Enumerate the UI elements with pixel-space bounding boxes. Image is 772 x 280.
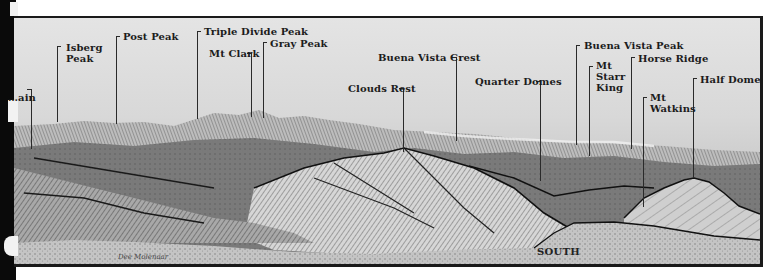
leader-gray-peak bbox=[263, 42, 264, 118]
tick bbox=[116, 36, 120, 37]
tick bbox=[27, 89, 31, 90]
label-mt-starr-king: Mt Starr King bbox=[596, 60, 625, 93]
leader-mt-clark bbox=[251, 53, 252, 117]
tick bbox=[693, 78, 697, 79]
leader-buena-vista-peak bbox=[576, 45, 577, 145]
label-buena-vista-crest: Buena Vista Crest bbox=[378, 52, 480, 63]
ragged-edge bbox=[4, 236, 18, 256]
artist-signature: Dee Molenaar bbox=[118, 253, 168, 261]
leader-triple-divide-peak bbox=[197, 31, 198, 119]
label-gray-peak: Gray Peak bbox=[270, 38, 328, 49]
label-half-dome: Half Dome bbox=[700, 74, 761, 85]
leader-post-peak bbox=[116, 36, 117, 124]
label-post-peak: Post Peak bbox=[123, 31, 179, 42]
leader-buena-vista-crest bbox=[456, 57, 457, 141]
label-clouds-rest: Clouds Rest bbox=[348, 83, 416, 94]
label-isberg-peak: Isberg Peak bbox=[66, 42, 103, 64]
leader-clouds-rest bbox=[403, 88, 404, 152]
tick bbox=[576, 45, 580, 46]
tick bbox=[263, 42, 267, 43]
leader-isberg-peak bbox=[57, 46, 58, 122]
tick bbox=[631, 57, 635, 58]
leader-quarter-domes bbox=[540, 81, 541, 181]
tick bbox=[197, 31, 201, 32]
tick bbox=[57, 46, 61, 47]
leader-horse-ridge bbox=[631, 57, 632, 149]
ragged-edge bbox=[10, 2, 18, 16]
label-mt-watkins: Mt Watkins bbox=[650, 92, 696, 114]
label-quarter-domes: Quarter Domes bbox=[475, 76, 562, 87]
tick bbox=[589, 66, 593, 67]
leader-mt-starr-king bbox=[589, 66, 590, 156]
label-horse-ridge: Horse Ridge bbox=[638, 53, 708, 64]
leader-mt-watkins bbox=[643, 97, 644, 207]
label-mt-clark: Mt Clark bbox=[209, 48, 259, 59]
label-buena-vista-peak: Buena Vista Peak bbox=[584, 40, 684, 51]
ragged-edge bbox=[8, 100, 18, 122]
direction-label-south: SOUTH bbox=[537, 246, 580, 257]
label-mountain-partial: …ain bbox=[8, 92, 36, 103]
label-triple-divide-peak: Triple Divide Peak bbox=[204, 26, 308, 37]
tick bbox=[643, 97, 647, 98]
